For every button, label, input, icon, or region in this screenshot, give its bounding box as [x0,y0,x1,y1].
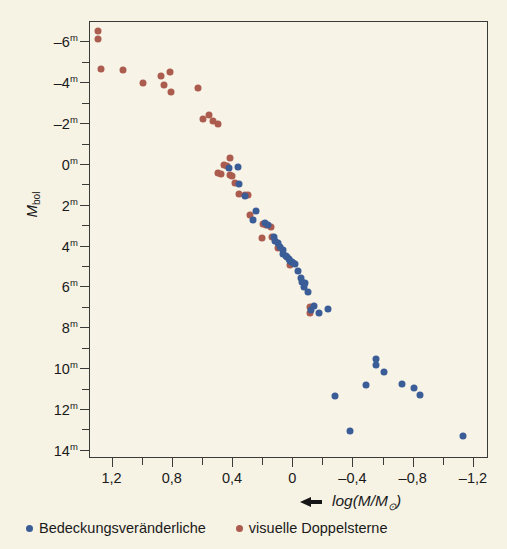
data-point-blue [305,288,312,295]
x-tick-minor [443,458,444,465]
y-tick-label: –2m [34,114,78,132]
y-tick-major [80,368,89,369]
data-point-blue [249,217,256,224]
data-point-red [94,28,101,35]
x-tick-major [413,458,414,467]
y-tick-major [80,205,89,206]
y-tick-major [80,450,89,451]
scatter-plot-area [90,22,487,457]
data-point-blue [308,306,315,313]
x-tick-label: 0,8 [142,470,202,486]
data-point-blue [324,305,331,312]
y-axis-labels: –6m–4m–2m0m2m4m6m8m10m12m14m [22,0,78,549]
data-point-blue [234,163,241,170]
data-point-blue [332,392,339,399]
data-point-red [228,173,235,180]
x-tick-label: 0,4 [202,470,262,486]
data-point-blue [373,362,380,369]
legend-marker-dot [236,525,243,532]
y-tick-minor [82,184,89,185]
y-tick-label: 8m [34,318,78,336]
x-tick-label: –0,4 [322,470,382,486]
y-axis-title-main: M [23,205,40,218]
x-tick-minor [142,458,143,465]
legend-label: Bedeckungsveränderliche [39,520,206,536]
y-tick-major [80,164,89,165]
legend-item: visuelle Doppelsterne [236,520,388,536]
data-point-red [94,36,101,43]
legend-item: Bedeckungsveränderliche [26,520,206,536]
x-axis-title-sub: ⊙ [388,501,396,512]
data-point-blue [294,268,301,275]
x-tick-minor [202,458,203,465]
y-tick-minor [82,429,89,430]
data-point-blue [362,382,369,389]
data-point-red [199,115,206,122]
y-tick-minor [82,103,89,104]
data-point-blue [416,391,423,398]
y-tick-major [80,327,89,328]
legend-marker-dot [26,525,33,532]
data-point-red [168,89,175,96]
y-tick-minor [82,225,89,226]
y-axis-title: Mbol [14,196,48,229]
x-axis-title: log(M/M⊙) [300,492,401,512]
y-tick-minor [82,144,89,145]
x-tick-label: 1,2 [82,470,142,486]
left-arrow-icon [300,497,311,507]
data-point-red [120,66,127,73]
legend-label: visuelle Doppelsterne [249,520,388,536]
x-tick-major [112,458,113,467]
x-tick-label: 0 [262,470,322,486]
data-point-red [258,235,265,242]
data-point-blue [347,428,354,435]
x-tick-minor [322,458,323,465]
x-tick-major [292,458,293,467]
data-point-red [157,73,164,80]
data-point-blue [291,260,298,267]
x-tick-minor [262,458,263,465]
y-tick-label: 4m [34,237,78,255]
y-tick-label: 10m [34,359,78,377]
data-point-red [160,82,167,89]
y-tick-label: 14m [34,441,78,459]
y-tick-minor [82,389,89,390]
y-tick-minor [82,307,89,308]
x-axis-title-main: log(M/M [332,492,388,509]
y-tick-minor [82,266,89,267]
x-axis-title-text: log(M/M⊙) [332,492,401,512]
y-axis-title-text: Mbol [23,188,40,222]
y-tick-label: 12m [34,400,78,418]
x-tick-label: –1,2 [443,470,503,486]
data-point-red [214,121,221,128]
y-tick-minor [82,62,89,63]
data-point-red [214,170,221,177]
y-tick-major [80,409,89,410]
x-tick-major [172,458,173,467]
x-tick-major [473,458,474,467]
y-tick-major [80,123,89,124]
x-tick-minor [383,458,384,465]
y-tick-major [80,246,89,247]
data-point-blue [225,165,232,172]
x-tick-label: –0,8 [383,470,443,486]
x-tick-major [352,458,353,467]
data-point-blue [380,369,387,376]
y-tick-major [80,82,89,83]
y-tick-label: –4m [34,73,78,91]
data-point-red [139,80,146,87]
y-tick-label: 6m [34,278,78,296]
data-point-red [227,154,234,161]
y-axis-title-sub: bol [31,192,42,205]
data-point-blue [315,309,322,316]
data-point-blue [252,207,259,214]
x-tick-major [232,458,233,467]
y-tick-minor [82,348,89,349]
y-tick-label: 0m [34,155,78,173]
data-point-red [166,69,173,76]
data-point-blue [236,181,243,188]
y-tick-major [80,41,89,42]
x-axis-title-end: ) [396,492,401,509]
data-point-blue [242,192,249,199]
plot-frame [89,21,488,458]
